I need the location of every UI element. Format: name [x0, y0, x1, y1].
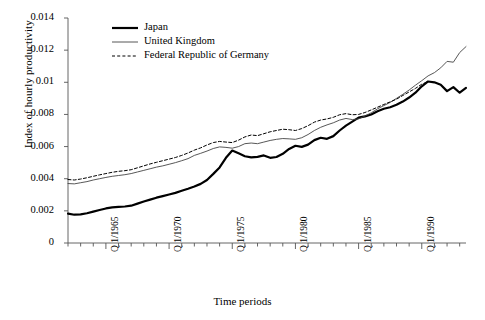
axis-spines — [68, 18, 466, 243]
plot-area — [0, 0, 485, 320]
chart-figure: Index of hourly productivity Time period… — [0, 0, 485, 320]
series-line-japan — [68, 81, 466, 214]
series-line-united-kingdom — [68, 47, 466, 184]
series-line-federal-republic-of-germany — [68, 81, 428, 180]
